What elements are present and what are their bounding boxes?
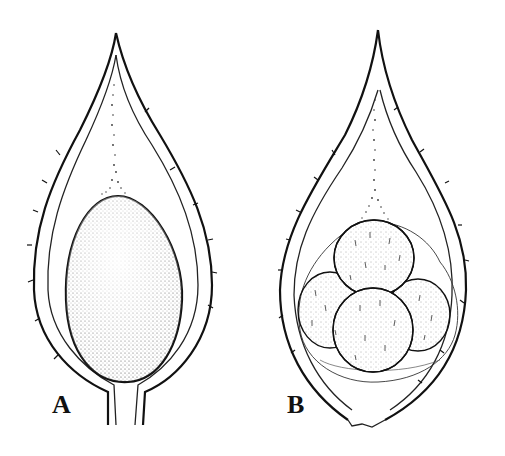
- seed-a: [66, 196, 182, 382]
- panel-label-b: B: [287, 392, 304, 418]
- funicle-a: [101, 84, 125, 195]
- seed-cluster-b: [298, 220, 450, 372]
- panel-a: [27, 33, 217, 425]
- funicle-b: [361, 99, 388, 220]
- panel-label-a: A: [52, 392, 71, 418]
- botanical-figure: [0, 0, 505, 456]
- panel-b: [278, 30, 469, 427]
